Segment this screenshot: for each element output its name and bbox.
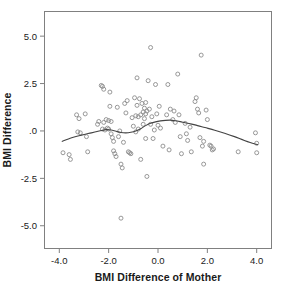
data-point-marker [75, 113, 79, 117]
data-point-marker [146, 79, 150, 83]
data-point-marker [107, 119, 111, 123]
data-point-marker [186, 138, 190, 142]
data-point-marker [83, 112, 87, 116]
x-axis-tick-label: -4.0 [51, 255, 67, 266]
data-point-marker [202, 139, 206, 143]
data-point-marker [77, 117, 81, 121]
data-point-marker [198, 136, 202, 140]
data-point-marker [131, 124, 135, 128]
y-axis-tick-label: .0 [29, 125, 37, 136]
data-point-marker [179, 152, 183, 156]
data-point-marker [125, 99, 129, 103]
data-point-marker [67, 153, 71, 157]
data-point-marker [200, 144, 204, 148]
data-point-marker [205, 118, 209, 122]
y-axis-tick-label: -2.5 [21, 173, 37, 184]
scatter-plot-figure: -4.0-2.00.02.04.05.02.5.0-2.5-5.0BMI Dif… [0, 0, 282, 292]
data-point-marker [236, 150, 240, 154]
data-point-marker [112, 139, 116, 143]
data-point-marker [152, 128, 156, 132]
data-point-marker [135, 76, 139, 80]
data-point-marker [184, 132, 188, 136]
data-point-marker [202, 162, 206, 166]
data-point-marker [161, 144, 165, 148]
data-point-marker [108, 90, 112, 94]
x-axis-tick-label: 2.0 [201, 255, 214, 266]
data-point-marker [155, 112, 159, 116]
data-point-marker [204, 108, 208, 112]
y-axis-tick-label: -5.0 [21, 220, 37, 231]
y-axis-tick-label: 5.0 [24, 31, 37, 42]
data-point-marker [166, 83, 170, 87]
x-axis-tick-label: 4.0 [250, 255, 263, 266]
data-point-marker [178, 135, 182, 139]
data-point-marker [177, 113, 181, 117]
data-point-marker [151, 137, 155, 141]
data-point-marker [172, 109, 176, 113]
data-point-marker [139, 157, 143, 161]
y-axis-tick-label: 2.5 [24, 78, 37, 89]
data-point-marker [117, 135, 121, 139]
data-point-marker [144, 101, 148, 105]
data-point-marker [149, 46, 153, 50]
x-axis-title: BMI Difference of Mother [95, 271, 222, 283]
data-point-marker [154, 83, 158, 87]
data-point-marker [134, 114, 138, 118]
data-point-marker [78, 131, 82, 135]
data-point-marker [104, 118, 108, 122]
data-point-marker [109, 119, 113, 123]
data-point-marker [142, 117, 146, 121]
x-axis-tick-label: 0.0 [151, 255, 164, 266]
data-point-marker [197, 111, 201, 115]
data-point-marker [158, 126, 162, 130]
data-point-marker [188, 125, 192, 129]
data-point-marker [84, 135, 88, 139]
data-point-marker [189, 150, 193, 154]
data-point-marker [108, 104, 112, 108]
data-point-marker [176, 72, 180, 76]
data-point-marker [150, 115, 154, 119]
data-point-marker [86, 150, 90, 154]
data-point-marker [135, 103, 139, 107]
x-axis-tick-label: -2.0 [100, 255, 116, 266]
data-point-marker [199, 53, 203, 57]
data-point-marker [133, 96, 137, 100]
data-point-marker [165, 113, 169, 117]
data-point-marker [167, 148, 171, 152]
data-point-marker [145, 174, 149, 178]
data-point-marker [120, 166, 124, 170]
data-point-marker [144, 137, 148, 141]
data-point-marker [157, 104, 161, 108]
plot-canvas: -4.0-2.00.02.04.05.02.5.0-2.5-5.0BMI Dif… [0, 0, 282, 292]
data-point-marker [255, 151, 259, 155]
data-point-marker [115, 105, 119, 109]
data-point-marker [68, 157, 72, 161]
data-point-marker [121, 140, 125, 144]
data-point-marker [76, 130, 80, 134]
data-point-marker [137, 97, 141, 101]
data-point-marker [194, 96, 198, 100]
data-point-marker [124, 111, 128, 115]
y-axis-title: BMI Difference [1, 92, 13, 167]
data-point-marker [61, 151, 65, 155]
data-point-marker [119, 216, 123, 220]
data-point-marker [253, 131, 257, 135]
